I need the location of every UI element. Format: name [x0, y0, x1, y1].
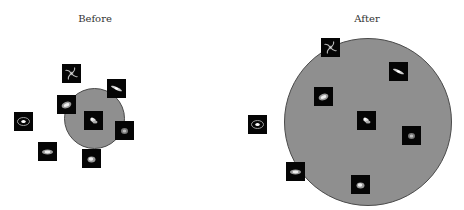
after-galaxy-thumbnail-irregular — [357, 111, 376, 130]
galaxy-spiral-icon — [321, 38, 340, 57]
after-title: After — [327, 13, 407, 24]
galaxy-compact-icon — [351, 175, 370, 194]
before-galaxy-thumbnail-irregular — [84, 111, 103, 130]
after-galaxy-thumbnail-edge-on — [389, 62, 408, 81]
after-galaxy-thumbnail-barred — [314, 87, 333, 106]
galaxy-barred-icon — [314, 87, 333, 106]
before-galaxy-thumbnail-lenticular — [38, 142, 57, 161]
before-title: Before — [55, 13, 135, 24]
galaxy-ring-icon — [14, 112, 33, 131]
before-galaxy-thumbnail-compact — [82, 149, 101, 168]
after-galaxy-thumbnail-spiral — [321, 38, 340, 57]
galaxy-lenticular-icon — [286, 162, 305, 181]
galaxy-lenticular-icon — [38, 142, 57, 161]
after-galaxy-thumbnail-compact — [351, 175, 370, 194]
after-galaxy-thumbnail-elliptical — [402, 126, 421, 145]
after-galaxy-thumbnail-ring — [248, 115, 267, 134]
galaxy-edge-on-icon — [107, 79, 126, 98]
before-galaxy-thumbnail-barred — [57, 95, 76, 114]
galaxy-compact-icon — [82, 149, 101, 168]
galaxy-barred-icon — [57, 95, 76, 114]
after-galaxy-thumbnail-lenticular — [286, 162, 305, 181]
galaxy-elliptical-icon — [402, 126, 421, 145]
galaxy-edge-on-icon — [389, 62, 408, 81]
before-galaxy-thumbnail-spiral — [62, 64, 81, 83]
before-galaxy-thumbnail-elliptical — [115, 121, 134, 140]
galaxy-ring-icon — [248, 115, 267, 134]
galaxy-elliptical-icon — [115, 121, 134, 140]
diagram-canvas: Before After — [0, 0, 464, 210]
before-galaxy-thumbnail-ring — [14, 112, 33, 131]
galaxy-irregular-icon — [84, 111, 103, 130]
galaxy-spiral-icon — [62, 64, 81, 83]
galaxy-irregular-icon — [357, 111, 376, 130]
before-galaxy-thumbnail-edge-on — [107, 79, 126, 98]
